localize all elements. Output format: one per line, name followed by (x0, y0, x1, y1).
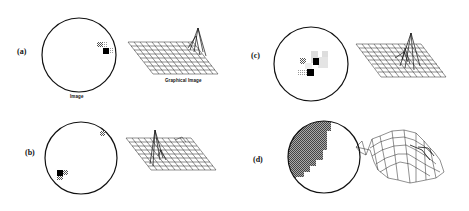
panel-d-image (280, 118, 360, 200)
panel-c-surface (356, 33, 446, 77)
figure-graphics (0, 0, 469, 211)
panel-c-image (274, 27, 348, 101)
panel-b-image (45, 122, 117, 194)
panel-a-surface (128, 28, 218, 74)
panel-b-surface (126, 130, 216, 170)
panel-d-surface (356, 130, 444, 183)
panel-a-image (42, 18, 116, 92)
